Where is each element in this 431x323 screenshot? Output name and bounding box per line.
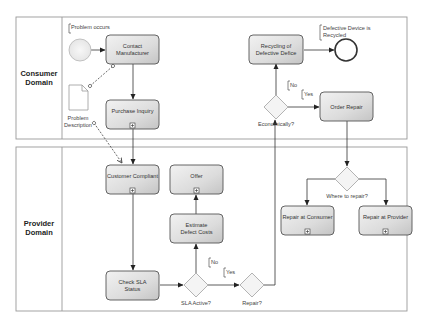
task-label: Check SLA bbox=[119, 279, 147, 285]
data-object-label: Problem bbox=[68, 115, 89, 121]
gateway-label: SLA Active? bbox=[181, 300, 211, 306]
task-label: Customer Compliant bbox=[107, 173, 158, 179]
task-repair-at-provider[interactable]: Repair at Provider bbox=[359, 206, 412, 235]
task-purchase-inquiry[interactable]: Purchase Inquiry bbox=[106, 100, 159, 129]
task-label: Recycling of bbox=[261, 43, 292, 49]
task-contact-manufacturer[interactable]: Contact Manufacturer bbox=[106, 35, 159, 64]
condition-text: No bbox=[211, 259, 218, 265]
start-annotation-text: Problem occurs bbox=[71, 24, 110, 30]
task-estimate-defect-costs[interactable]: Estimate Defect Costs bbox=[170, 214, 223, 243]
task-label: Repair at Provider bbox=[363, 214, 408, 220]
task-recycling[interactable]: Recycling of Defective Defice bbox=[249, 35, 303, 64]
subprocess-marker-icon[interactable] bbox=[305, 229, 310, 234]
task-order-repair[interactable]: Order Repair bbox=[320, 92, 373, 121]
task-label: Estimate bbox=[186, 222, 208, 228]
task-label: Repair at Consumer bbox=[282, 214, 332, 220]
subprocess-marker-icon[interactable] bbox=[130, 123, 135, 128]
gateway-label: Repair? bbox=[242, 300, 262, 306]
lane-label-provider-2: Domain bbox=[25, 228, 53, 237]
gateway-label: Where to repair? bbox=[326, 193, 368, 199]
task-offer[interactable]: Offer bbox=[170, 165, 223, 194]
task-repair-at-consumer[interactable]: Repair at Consumer bbox=[281, 206, 334, 235]
lane-label-consumer-2: Domain bbox=[25, 78, 53, 87]
subprocess-marker-icon[interactable] bbox=[383, 229, 388, 234]
lane-label-consumer: Consumer bbox=[20, 69, 57, 78]
end-annotation-text: Defective Device is bbox=[323, 25, 371, 31]
task-label-2: Status bbox=[125, 286, 141, 292]
gateway-label: Economically? bbox=[258, 121, 294, 127]
condition-text: Yes bbox=[304, 91, 313, 97]
data-object-label-2: Description bbox=[64, 122, 92, 128]
subprocess-marker-icon[interactable] bbox=[130, 188, 135, 193]
task-label-2: Defective Defice bbox=[256, 50, 297, 56]
bpmn-diagram: Consumer Domain Provider Domain bbox=[0, 0, 431, 323]
task-customer-compliant[interactable]: Customer Compliant bbox=[106, 165, 159, 194]
end-event[interactable] bbox=[335, 39, 357, 61]
task-label: Offer bbox=[190, 173, 202, 179]
task-label: Order Repair bbox=[330, 104, 362, 110]
task-label: Contact bbox=[123, 43, 143, 49]
task-label-2: Manufacturer bbox=[116, 50, 149, 56]
task-label-2: Defect Costs bbox=[180, 229, 212, 235]
task-check-sla-status[interactable]: Check SLA Status bbox=[106, 271, 159, 300]
subprocess-marker-icon[interactable] bbox=[194, 188, 199, 193]
end-annotation-text-2: Recycled bbox=[323, 32, 346, 38]
condition-text: No bbox=[290, 82, 297, 88]
condition-text: Yes bbox=[226, 269, 235, 275]
lane-label-provider: Provider bbox=[24, 219, 55, 228]
task-label: Purchase Inquiry bbox=[112, 108, 154, 114]
start-event[interactable] bbox=[69, 39, 91, 61]
